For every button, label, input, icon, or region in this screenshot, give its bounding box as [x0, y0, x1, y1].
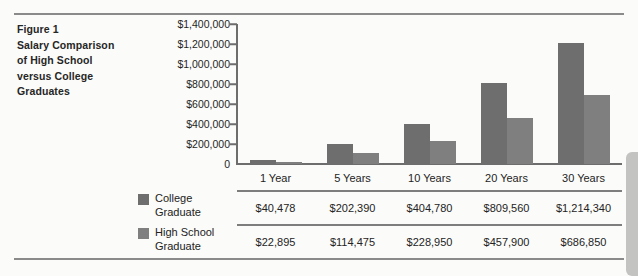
table-column-header: 5 Years [314, 168, 391, 188]
bar [430, 141, 456, 164]
y-axis-tick [230, 103, 237, 105]
table-cell: $202,390 [314, 194, 391, 222]
legend-label-line: Graduate [155, 240, 214, 254]
table-cell: $40,478 [237, 194, 314, 222]
figure-caption: Figure 1Salary Comparisonof High Schoolv… [17, 22, 152, 100]
table-cell: $22,895 [237, 228, 314, 256]
caption-line: Graduates [17, 84, 152, 100]
y-axis-tick-label: $1,000,000 [177, 58, 230, 70]
y-axis-tick [230, 43, 237, 45]
legend-item: High SchoolGraduate [138, 226, 248, 253]
y-axis-tick-label: $400,000 [186, 118, 230, 130]
bar [558, 43, 584, 164]
legend-label-line: High School [155, 226, 214, 240]
table-column-header: 1 Year [237, 168, 314, 188]
bar [507, 118, 533, 164]
table-cell: $809,560 [468, 194, 545, 222]
bottom-divider [14, 258, 624, 260]
figure-page: Figure 1Salary Comparisonof High Schoolv… [0, 0, 638, 276]
y-axis-tick-label: 0 [224, 158, 230, 170]
legend-swatch [138, 228, 149, 239]
y-axis-tick [230, 123, 237, 125]
y-axis-tick-label: $1,400,000 [177, 18, 230, 30]
table-cell: $457,900 [468, 228, 545, 256]
caption-line: of High School [17, 53, 152, 69]
bar-group [250, 24, 302, 164]
caption-line: Figure 1 [17, 22, 152, 38]
table-divider-row [237, 224, 622, 226]
table-cell: $686,850 [545, 228, 622, 256]
table-cell: $114,475 [314, 228, 391, 256]
y-axis-tick [230, 23, 237, 25]
legend-label: High SchoolGraduate [155, 226, 214, 253]
table-cell: $404,780 [391, 194, 468, 222]
legend-label-line: College [155, 192, 201, 206]
legend-item: CollegeGraduate [138, 192, 248, 219]
top-divider [14, 13, 624, 15]
table-column-header: 30 Years [545, 168, 622, 188]
table-column-header: 10 Years [391, 168, 468, 188]
page-edge-artifact [626, 152, 638, 276]
y-axis-tick [230, 83, 237, 85]
y-axis-tick [230, 63, 237, 65]
legend-swatch [138, 194, 149, 205]
bar-group [481, 24, 533, 164]
plot-area [238, 24, 622, 164]
caption-line: versus College [17, 69, 152, 85]
bar-group [558, 24, 610, 164]
bar [276, 162, 302, 164]
y-axis-tick-label: $200,000 [186, 138, 230, 150]
table-cell: $228,950 [391, 228, 468, 256]
y-axis-tick-label: $800,000 [186, 78, 230, 90]
bar-chart: $1,400,000$1,200,000$1,000,000$800,000$6… [152, 18, 622, 170]
table-column-header: 20 Years [468, 168, 545, 188]
legend-label: CollegeGraduate [155, 192, 201, 219]
table-row: $22,895$114,475$228,950$457,900$686,850 [237, 228, 622, 256]
y-axis-tick-label: $600,000 [186, 98, 230, 110]
y-axis-tick-label: $1,200,000 [177, 38, 230, 50]
table-header-row: 1 Year5 Years10 Years20 Years30 Years [237, 168, 622, 188]
bar-group [404, 24, 456, 164]
bar-group [327, 24, 379, 164]
table-divider-header [237, 190, 622, 192]
y-axis-labels: $1,400,000$1,200,000$1,000,000$800,000$6… [152, 18, 230, 170]
bar [404, 124, 430, 164]
bar [250, 160, 276, 164]
bar [481, 83, 507, 164]
table-row: $40,478$202,390$404,780$809,560$1,214,34… [237, 194, 622, 222]
chart-legend: CollegeGraduateHigh SchoolGraduate [138, 192, 248, 260]
bar [584, 95, 610, 164]
legend-label-line: Graduate [155, 206, 201, 220]
bar [353, 153, 379, 164]
caption-line: Salary Comparison [17, 38, 152, 54]
bar [327, 144, 353, 164]
table-cell: $1,214,340 [545, 194, 622, 222]
data-table: 1 Year5 Years10 Years20 Years30 Years $4… [237, 168, 622, 256]
y-axis-tick [230, 143, 237, 145]
